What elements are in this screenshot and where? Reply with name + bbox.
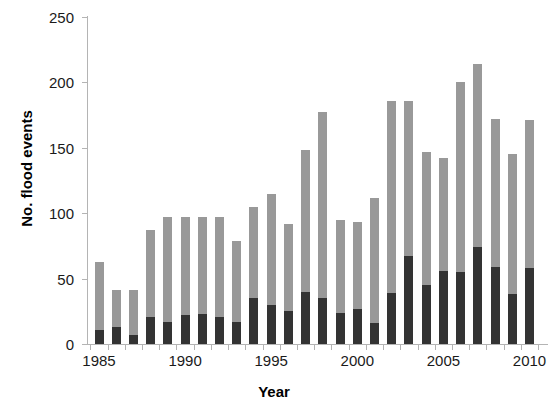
bar-lower-segment bbox=[353, 309, 362, 344]
bar-lower-segment bbox=[387, 293, 396, 344]
bar-lower-segment bbox=[422, 285, 431, 344]
flood-events-chart: No. flood events 050100150200250 1985199… bbox=[0, 0, 548, 412]
bar-lower-segment bbox=[370, 323, 379, 344]
bar-1987[interactable] bbox=[129, 290, 138, 344]
bar-upper-segment bbox=[508, 154, 517, 294]
x-tick-label: 2005 bbox=[427, 352, 460, 369]
bar-2007[interactable] bbox=[473, 64, 482, 344]
bar-lower-segment bbox=[284, 311, 293, 344]
x-tick bbox=[263, 345, 264, 350]
bar-upper-segment bbox=[232, 241, 241, 322]
bar-upper-segment bbox=[181, 217, 190, 315]
x-axis-line bbox=[87, 344, 548, 345]
bar-2008[interactable] bbox=[491, 119, 500, 344]
x-tick bbox=[452, 345, 453, 350]
bar-2005[interactable] bbox=[439, 158, 448, 344]
bar-upper-segment bbox=[112, 290, 121, 327]
bar-lower-segment bbox=[112, 327, 121, 344]
bar-1985[interactable] bbox=[95, 262, 104, 344]
bar-2002[interactable] bbox=[387, 101, 396, 344]
bar-2010[interactable] bbox=[525, 120, 534, 344]
bar-upper-segment bbox=[404, 101, 413, 257]
bar-upper-segment bbox=[491, 119, 500, 267]
bar-1998[interactable] bbox=[318, 112, 327, 344]
bar-1991[interactable] bbox=[198, 217, 207, 344]
bar-upper-segment bbox=[439, 158, 448, 270]
bar-1997[interactable] bbox=[301, 150, 310, 344]
x-tick-label: 2010 bbox=[513, 352, 546, 369]
bar-1988[interactable] bbox=[146, 230, 155, 344]
bar-upper-segment bbox=[336, 220, 345, 313]
x-tick bbox=[125, 345, 126, 350]
x-tick-label: 2000 bbox=[341, 352, 374, 369]
bar-2009[interactable] bbox=[508, 154, 517, 344]
bar-lower-segment bbox=[439, 271, 448, 344]
bar-1986[interactable] bbox=[112, 290, 121, 344]
bar-1995[interactable] bbox=[267, 194, 276, 344]
bar-2006[interactable] bbox=[456, 82, 465, 344]
bar-lower-segment bbox=[508, 294, 517, 344]
bar-lower-segment bbox=[456, 272, 465, 344]
bar-upper-segment bbox=[284, 224, 293, 312]
bar-1996[interactable] bbox=[284, 224, 293, 344]
x-tick bbox=[194, 345, 195, 350]
bar-lower-segment bbox=[198, 314, 207, 344]
bar-1999[interactable] bbox=[336, 220, 345, 344]
bar-upper-segment bbox=[353, 222, 362, 308]
bar-upper-segment bbox=[249, 207, 258, 299]
bar-1992[interactable] bbox=[215, 217, 224, 344]
bar-upper-segment bbox=[525, 120, 534, 268]
x-tick bbox=[108, 345, 109, 350]
bar-lower-segment bbox=[473, 247, 482, 344]
bar-lower-segment bbox=[525, 268, 534, 344]
x-tick-label: 1995 bbox=[255, 352, 288, 369]
bar-lower-segment bbox=[232, 322, 241, 344]
x-tick bbox=[228, 345, 229, 350]
x-tick bbox=[400, 345, 401, 350]
bar-1989[interactable] bbox=[163, 217, 172, 344]
x-tick bbox=[90, 345, 91, 350]
x-tick bbox=[383, 345, 384, 350]
bar-lower-segment bbox=[318, 298, 327, 344]
bar-upper-segment bbox=[422, 152, 431, 285]
bar-series-layer bbox=[0, 0, 548, 344]
x-tick bbox=[176, 345, 177, 350]
bar-lower-segment bbox=[181, 315, 190, 344]
bar-lower-segment bbox=[267, 305, 276, 344]
bar-lower-segment bbox=[491, 267, 500, 344]
bar-lower-segment bbox=[404, 256, 413, 344]
bar-upper-segment bbox=[387, 101, 396, 293]
bar-lower-segment bbox=[163, 322, 172, 344]
bar-lower-segment bbox=[249, 298, 258, 344]
bar-lower-segment bbox=[215, 317, 224, 344]
bar-lower-segment bbox=[301, 292, 310, 344]
bar-2004[interactable] bbox=[422, 152, 431, 344]
bar-lower-segment bbox=[129, 335, 138, 344]
x-tick bbox=[245, 345, 246, 350]
x-tick bbox=[211, 345, 212, 350]
x-tick bbox=[297, 345, 298, 350]
bar-lower-segment bbox=[146, 317, 155, 344]
bar-upper-segment bbox=[456, 82, 465, 272]
bar-lower-segment bbox=[95, 330, 104, 344]
bar-2003[interactable] bbox=[404, 101, 413, 344]
bar-upper-segment bbox=[370, 198, 379, 324]
x-axis-tick-labels: 198519901995200020052010 bbox=[0, 352, 548, 376]
x-tick bbox=[366, 345, 367, 350]
bar-upper-segment bbox=[163, 217, 172, 322]
bar-1994[interactable] bbox=[249, 207, 258, 344]
bar-2000[interactable] bbox=[353, 222, 362, 344]
x-tick bbox=[538, 345, 539, 350]
x-tick bbox=[418, 345, 419, 350]
bar-1990[interactable] bbox=[181, 217, 190, 344]
bar-2001[interactable] bbox=[370, 198, 379, 344]
x-axis-title: Year bbox=[0, 383, 548, 400]
x-tick bbox=[142, 345, 143, 350]
bar-upper-segment bbox=[146, 230, 155, 316]
y-tick bbox=[82, 344, 88, 345]
bar-upper-segment bbox=[198, 217, 207, 314]
bar-lower-segment bbox=[336, 313, 345, 344]
x-tick bbox=[504, 345, 505, 350]
bar-upper-segment bbox=[318, 112, 327, 298]
bar-1993[interactable] bbox=[232, 241, 241, 344]
